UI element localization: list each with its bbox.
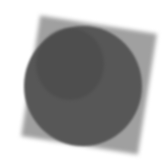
image-canvas xyxy=(0,0,165,162)
crescent-shading xyxy=(36,28,104,100)
